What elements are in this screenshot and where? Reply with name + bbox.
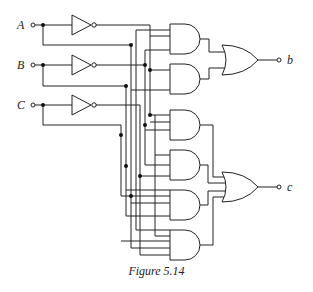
inverter-b xyxy=(72,55,96,75)
output-label-b: b xyxy=(287,53,293,67)
or-gate-c xyxy=(222,172,258,202)
input-terminal-c xyxy=(31,103,35,107)
input-label-c: C xyxy=(17,98,26,112)
and6-to-or-c xyxy=(200,197,226,245)
and2-to-or-b xyxy=(200,68,226,79)
and-gate-6 xyxy=(170,230,200,260)
and-gate-1 xyxy=(170,24,200,54)
input-terminal-a xyxy=(31,23,35,27)
inverter-a xyxy=(72,15,96,35)
input-terminal-b xyxy=(31,63,35,67)
logic-circuit-diagram: A B C xyxy=(0,0,313,292)
input-label-a: A xyxy=(16,18,25,32)
and-gate-5 xyxy=(170,190,200,220)
output-terminal-c xyxy=(277,185,281,189)
output-terminal-b xyxy=(277,58,281,62)
inverter-c xyxy=(72,95,96,115)
figure-caption: Figure 5.14 xyxy=(0,264,313,279)
and-gate-2 xyxy=(170,64,200,94)
and3-to-or-c xyxy=(200,125,226,177)
or-gate-b xyxy=(222,45,258,75)
and-gate-3 xyxy=(170,110,200,140)
input-label-b: B xyxy=(17,58,25,72)
and-gate-4 xyxy=(170,150,200,180)
output-label-c: c xyxy=(287,180,293,194)
